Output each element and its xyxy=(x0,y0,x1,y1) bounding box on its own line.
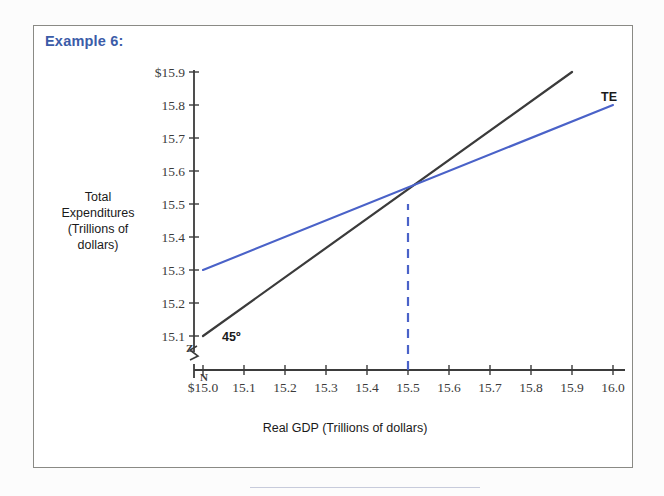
example-card: Example 6: xyxy=(33,25,633,468)
page-footer-rule xyxy=(250,487,480,488)
page-background: Example 6: Z N xyxy=(0,0,664,496)
example-title: Example 6: xyxy=(45,33,124,49)
